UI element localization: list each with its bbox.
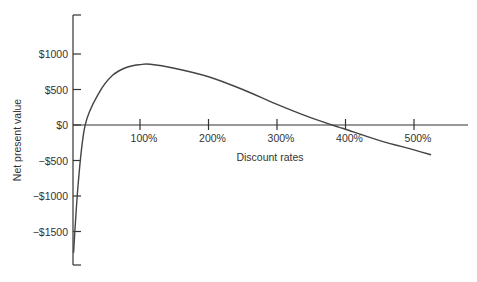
x-axis-title: Discount rates xyxy=(236,151,303,163)
y-axis-title: Net present value xyxy=(11,99,23,181)
y-tick-label: −$500 xyxy=(39,155,69,167)
npv-chart: $1000$500$0−$500−$1000−$1500 100%200%300… xyxy=(0,0,477,282)
x-tick-label: 100% xyxy=(131,132,158,144)
y-tick-label: $500 xyxy=(45,84,69,96)
x-axis: 100%200%300%400%500% xyxy=(73,119,468,144)
y-axis: $1000$500$0−$500−$1000−$1500 xyxy=(33,15,81,265)
y-tick-label: $1000 xyxy=(39,48,68,60)
y-tick-label: $0 xyxy=(56,119,68,131)
x-tick-label: 200% xyxy=(199,132,226,144)
y-tick-label: −$1500 xyxy=(33,226,68,238)
x-tick-label: 300% xyxy=(268,132,295,144)
y-tick-label: −$1000 xyxy=(33,190,68,202)
x-tick-label: 500% xyxy=(405,132,432,144)
